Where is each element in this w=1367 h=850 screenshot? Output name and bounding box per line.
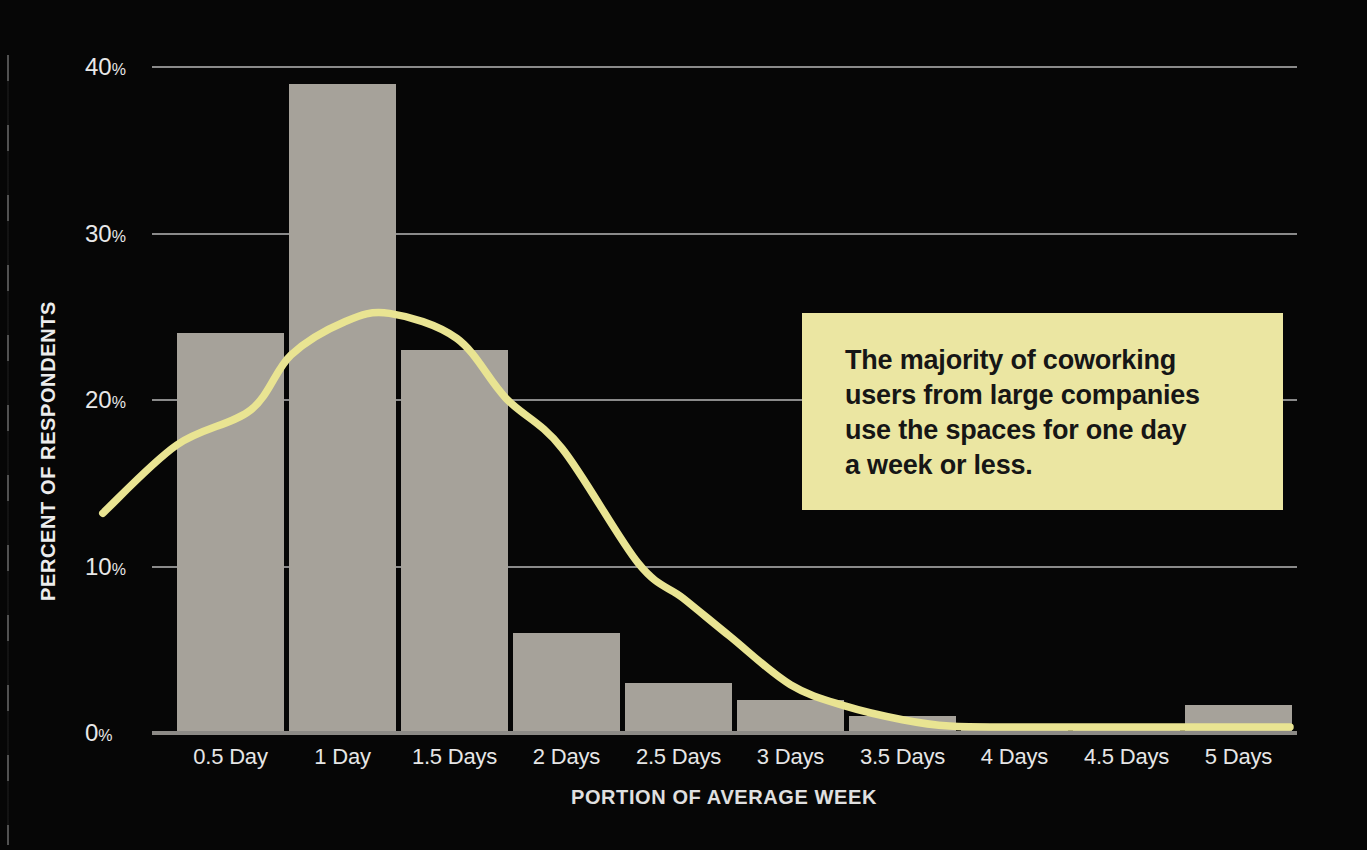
y-tick-value: 0: [85, 719, 98, 746]
bar-1-day: [289, 84, 396, 735]
y-tick-label-20: 20%: [85, 385, 126, 415]
bar-2-days: [513, 633, 620, 735]
y-tick-label-30: 30%: [85, 219, 126, 249]
y-tick-value: 20: [85, 386, 112, 413]
y-tick-label-0: 0%: [85, 718, 113, 748]
y-tick-label-10: 10%: [85, 552, 126, 582]
bar-2.5-days: [625, 683, 732, 735]
bar-0.5-day: [177, 333, 284, 735]
annotation-callout: The majority of coworking users from lar…: [802, 313, 1283, 510]
y-tick-value: 10: [85, 553, 112, 580]
page-edge-line: [7, 55, 9, 845]
y-axis-title: PERCENT OF RESPONDENTS: [37, 251, 65, 651]
chart-figure: PERCENT OF RESPONDENTS 40%30%20%10%0% 0.…: [0, 0, 1367, 850]
x-axis-line: [152, 731, 1297, 735]
bar-3-days: [737, 700, 844, 735]
percent-sign: %: [112, 394, 126, 411]
percent-sign: %: [98, 727, 112, 744]
percent-sign: %: [112, 61, 126, 78]
y-tick-label-40: 40%: [85, 52, 126, 82]
x-category-label: 5 Days: [1164, 744, 1314, 770]
y-tick-value: 40: [85, 53, 112, 80]
x-axis-title: PORTION OF AVERAGE WEEK: [424, 786, 1024, 809]
bar-1.5-days: [401, 350, 508, 735]
gridline-40: [152, 66, 1297, 68]
y-tick-value: 30: [85, 220, 112, 247]
annotation-text: The majority of coworking users from lar…: [845, 343, 1283, 483]
percent-sign: %: [112, 561, 126, 578]
percent-sign: %: [112, 228, 126, 245]
